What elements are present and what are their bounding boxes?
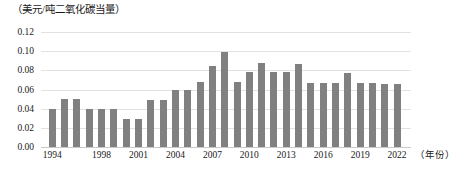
- x-tick-label: 2013: [277, 150, 296, 161]
- x-axis: （年份） 19941998200120042007201020132016201…: [41, 147, 411, 177]
- x-tick-label: 2016: [314, 150, 333, 161]
- bar: [184, 90, 191, 147]
- x-tick-label: 2010: [240, 150, 259, 161]
- y-tick-label: 0.10: [17, 46, 34, 56]
- bar: [123, 119, 130, 147]
- bar: [295, 64, 302, 147]
- y-tick-label: 0.04: [17, 104, 34, 114]
- y-tick-label: 0.06: [17, 85, 34, 95]
- bar: [73, 99, 80, 147]
- bar: [369, 83, 376, 147]
- x-tick-label: 2001: [129, 150, 148, 161]
- x-tick-label: 1994: [43, 150, 62, 161]
- bar: [49, 109, 56, 147]
- bar: [283, 72, 290, 147]
- bar: [147, 100, 154, 147]
- x-axis-title: （年份）: [415, 150, 453, 161]
- y-tick-label: 0.12: [17, 27, 34, 37]
- bar: [320, 83, 327, 147]
- bar: [209, 66, 216, 147]
- bar: [98, 109, 105, 147]
- bar: [332, 83, 339, 147]
- y-tick-label: 0.02: [17, 123, 34, 133]
- bar-series: [41, 32, 411, 147]
- y-tick-label: 0.08: [17, 65, 34, 75]
- bar: [307, 83, 314, 147]
- bar: [135, 119, 142, 147]
- y-tick-label: 0.00: [17, 142, 34, 152]
- bar: [344, 73, 351, 147]
- y-axis: 0.120.100.080.060.040.020.00: [0, 32, 38, 147]
- bar: [394, 84, 401, 147]
- bar: [172, 90, 179, 147]
- bar: [270, 72, 277, 147]
- x-tick-label: 2019: [351, 150, 370, 161]
- plot-area: [41, 32, 411, 147]
- bar: [357, 83, 364, 147]
- bar: [110, 109, 117, 147]
- chart-unit-caption: （美元/吨二氧化碳当量）: [12, 4, 125, 16]
- bar: [234, 82, 241, 147]
- bar: [61, 99, 68, 147]
- bar: [86, 109, 93, 147]
- bar: [221, 52, 228, 147]
- bar: [246, 72, 253, 147]
- bar: [197, 82, 204, 147]
- x-tick-label: 2004: [166, 150, 185, 161]
- bar: [160, 100, 167, 147]
- x-tick-label: 1998: [92, 150, 111, 161]
- x-tick-label: 2022: [388, 150, 407, 161]
- x-tick-label: 2007: [203, 150, 222, 161]
- bar: [258, 63, 265, 147]
- bar: [381, 84, 388, 147]
